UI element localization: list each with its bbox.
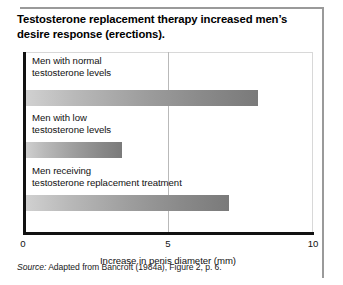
x-tick-label: 10 <box>308 238 319 249</box>
chart-title: Testosterone replacement therapy increas… <box>17 12 317 41</box>
x-axis-line <box>23 232 314 235</box>
bar-label: Men with normal testosterone levels <box>32 55 111 80</box>
bar-label: Men receiving testosterone replacement t… <box>32 165 182 190</box>
bar <box>23 142 122 158</box>
source-citation: Adapted from Bancroft (1984a), Figure 2,… <box>46 262 221 272</box>
x-tick-label: 0 <box>20 238 25 249</box>
plot-border-right <box>312 52 313 233</box>
figure-frame-top-rule <box>20 7 324 9</box>
source-note: Source: Adapted from Bancroft (1984a), F… <box>17 262 222 272</box>
x-tick-label: 5 <box>165 238 170 249</box>
source-label: Source: <box>17 262 46 272</box>
bar <box>23 195 229 211</box>
bar <box>23 90 258 106</box>
chart-figure: Testosterone replacement therapy increas… <box>0 0 343 285</box>
y-axis-line <box>23 52 26 233</box>
bar-label: Men with low testosterone levels <box>32 112 111 137</box>
figure-frame-right-rule <box>322 7 324 278</box>
plot-area: Men with normal testosterone levelsMen w… <box>23 52 313 232</box>
